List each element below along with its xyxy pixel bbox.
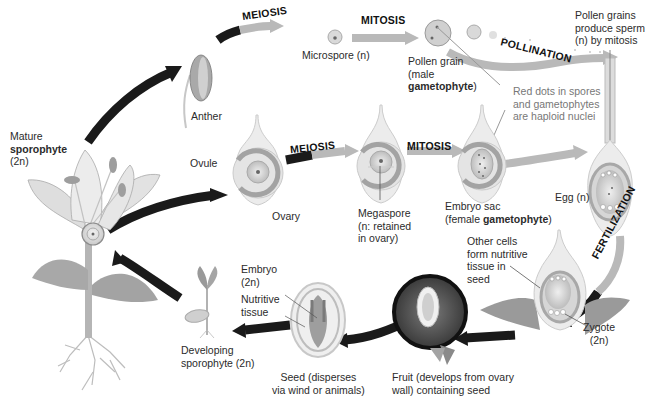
label-microspore: Microspore (n) <box>302 49 370 62</box>
arrow-anther-meiosis-dark <box>218 30 240 40</box>
label-anther: Anther <box>191 110 222 123</box>
embryo-sac-illustration <box>458 105 506 203</box>
note-red-dots: Red dots in spores and gametophytes are … <box>513 85 601 123</box>
ovule-illustration-1 <box>233 115 283 205</box>
label-embryo-sac: Embryo sac (female gametophyte) <box>445 200 552 225</box>
arrow-zygote-to-fruit <box>465 335 515 338</box>
label-pollen-produce-sperm: Pollen grains produce sperm (n) by mitos… <box>575 9 645 47</box>
angiosperm-life-cycle-diagram: MEIOSIS MITOSIS POLLINATION MEIOSIS MITO… <box>0 0 655 404</box>
label-embryo: Embryo (2n) <box>241 263 277 288</box>
process-mitosis-bottom: MITOSIS <box>407 140 451 152</box>
label-zygote: Zygote (2n) <box>583 321 615 346</box>
label-seed: Seed (disperses via wind or animals) <box>272 371 365 396</box>
arrow-seed-to-seedling <box>245 325 290 330</box>
label-developing-sporophyte: Developing sporophyte (2n) <box>181 344 255 369</box>
label-ovary: Ovary <box>272 210 300 223</box>
fruit-illustration <box>394 276 466 365</box>
microspore-illustration <box>328 30 342 44</box>
arrow-sporophyte-to-anther <box>88 72 172 142</box>
label-nutritive-tissue: Nutritive tissue <box>241 293 280 318</box>
megaspore-illustration <box>357 105 405 203</box>
label-other-cells: Other cells form nutritive tissue in see… <box>467 235 528 285</box>
diploid-arrows <box>88 30 598 340</box>
label-megaspore: Megaspore (n: retained in ovary) <box>358 207 411 245</box>
seedling-illustration <box>184 266 217 338</box>
label-egg: Egg (n) <box>555 191 589 204</box>
label-mature-sporophyte: Mature sporophyte (2n) <box>10 130 67 168</box>
label-fruit: Fruit (develops from ovary wall) contain… <box>392 371 514 396</box>
label-pollen-grain: Pollen grain (male gametophyte) <box>408 55 477 93</box>
label-ovule: Ovule <box>190 157 217 170</box>
process-mitosis-top: MITOSIS <box>361 14 405 26</box>
arrow-ovule-meiosis-dark <box>286 155 312 160</box>
seed-illustration <box>285 283 345 357</box>
